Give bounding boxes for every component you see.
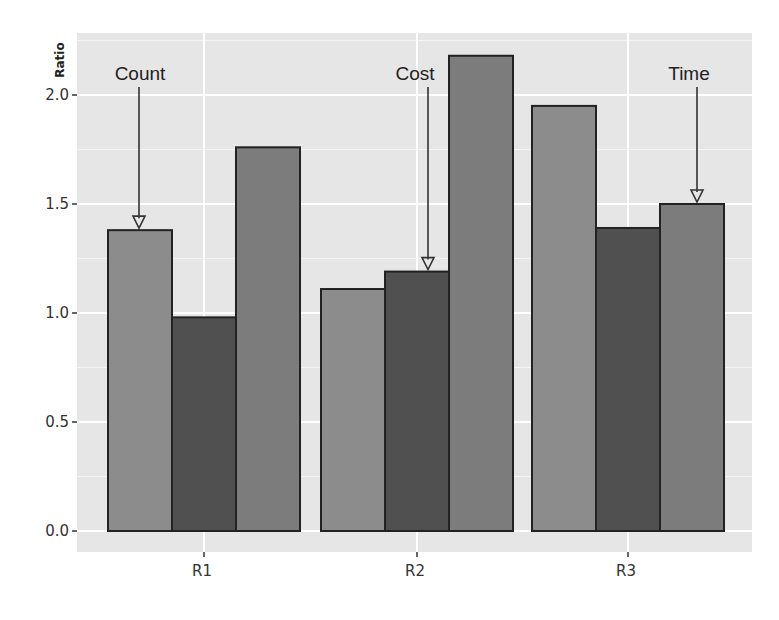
bar-r2-count (321, 289, 385, 531)
bar-r3-count (532, 106, 596, 531)
x-axis: R1R2R3 (192, 552, 636, 580)
y-tick-label: 0.0 (45, 522, 69, 540)
bar-r3-cost (596, 228, 660, 531)
y-axis-title: Ratio (53, 42, 67, 77)
bar-r1-time (236, 147, 300, 531)
annotation-label-time: Time (668, 63, 710, 84)
y-tick-label: 0.5 (45, 413, 69, 431)
annotation-label-cost: Cost (395, 63, 435, 84)
y-tick-label: 1.0 (45, 304, 69, 322)
x-tick-label-r1: R1 (192, 562, 212, 580)
x-tick-label-r3: R3 (616, 562, 636, 580)
bar-chart: CountCostTime 0.00.51.01.52.0 R1R2R3 Rat… (0, 0, 779, 620)
bar-r2-time (449, 56, 513, 531)
bar-r3-time (660, 204, 724, 531)
bar-r1-count (108, 230, 172, 531)
annotation-label-count: Count (115, 63, 166, 84)
y-tick-label: 1.5 (45, 195, 69, 213)
bar-r1-cost (172, 317, 236, 531)
x-tick-label-r2: R2 (405, 562, 425, 580)
y-axis: 0.00.51.01.52.0 (45, 86, 77, 540)
y-tick-label: 2.0 (45, 86, 69, 104)
bar-r2-cost (385, 272, 449, 531)
